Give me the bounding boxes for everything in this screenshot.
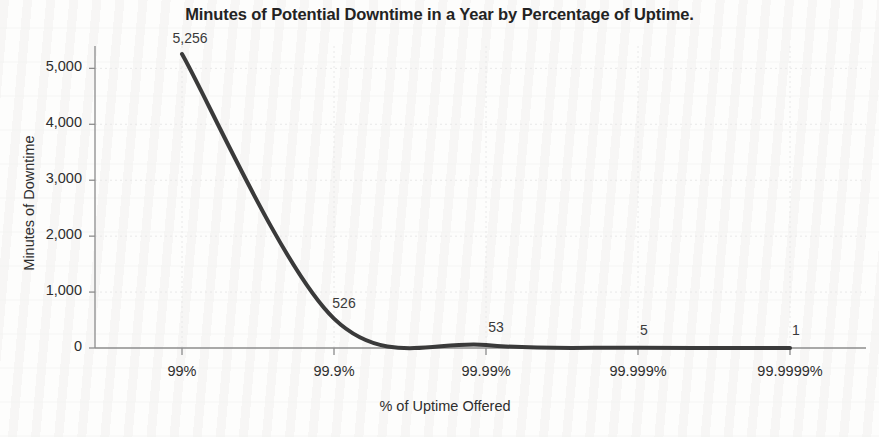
- axis-lines-group: [95, 46, 866, 348]
- y-tick-label: 2,000: [0, 226, 82, 242]
- y-tick-label: 4,000: [0, 114, 82, 130]
- x-tick-label: 99.999%: [568, 363, 708, 379]
- chart-page: Minutes of Potential Downtime in a Year …: [0, 0, 879, 437]
- y-tick-label: 5,000: [0, 58, 82, 74]
- data-point-label: 5: [604, 322, 684, 338]
- y-tick-label: 3,000: [0, 170, 82, 186]
- x-tick-label: 99.9%: [264, 363, 404, 379]
- y-tick-label: 1,000: [0, 282, 82, 298]
- data-point-label: 1: [756, 322, 836, 338]
- y-axis-title: Minutes of Downtime: [21, 108, 37, 298]
- data-point-label: 53: [456, 319, 536, 335]
- x-axis-title: % of Uptime Offered: [265, 398, 625, 414]
- gridlines-group: [95, 46, 866, 348]
- tick-marks-group: [89, 68, 790, 355]
- data-point-label: 526: [304, 295, 384, 311]
- x-tick-label: 99.9999%: [720, 363, 860, 379]
- data-point-label: 5,256: [150, 30, 230, 46]
- y-tick-label: 0: [0, 338, 82, 354]
- x-tick-label: 99%: [112, 363, 252, 379]
- x-tick-label: 99.99%: [416, 363, 556, 379]
